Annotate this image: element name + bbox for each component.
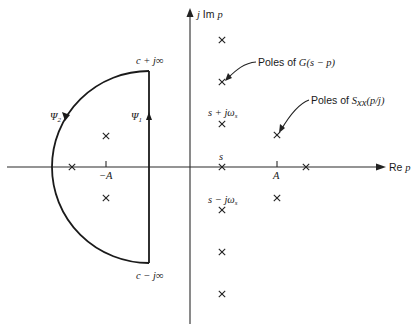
imaginary-axis: j Im p <box>187 8 223 324</box>
pole-marker-icon <box>103 195 109 201</box>
psi1-label: Ψ1 <box>131 111 142 124</box>
s-plus-jomega-label: s + jωs <box>208 107 238 120</box>
svg-text:Poles of G(s − p): Poles of G(s − p) <box>258 56 336 69</box>
annotation-poles-S: Poles of Sxx(p/j) <box>279 94 385 133</box>
real-axis: Re p <box>7 161 411 173</box>
tick-label-neg-A: −A <box>99 170 113 181</box>
tick-label-s: s <box>219 151 223 162</box>
psi2-label: Ψ2 <box>50 111 61 124</box>
tick-label-pos-A: A <box>272 170 280 181</box>
pole-marker-icon <box>274 195 280 201</box>
s-minus-jomega-label: s − jωs <box>208 194 238 207</box>
pole-marker-icon <box>219 37 225 43</box>
complex-plane-contour-diagram: j Im p Re p −A A s c + j∞ c − j∞ Ψ1 Ψ2 s… <box>0 0 415 332</box>
pole-marker-icon <box>219 207 225 213</box>
psi1-direction-arrow-icon <box>146 112 152 120</box>
pole-marker-icon <box>219 79 225 85</box>
pole-marker-icon <box>219 249 225 255</box>
annotation-poles-G: Poles of G(s − p) <box>225 56 336 81</box>
imaginary-axis-label: j Im p <box>195 8 223 20</box>
contour-bottom-label: c − j∞ <box>136 270 163 281</box>
svg-text:Poles of Sxx(p/j): Poles of Sxx(p/j) <box>311 94 385 108</box>
real-axis-label: Re p <box>389 161 411 173</box>
pole-marker-icon <box>219 121 225 127</box>
pole-marker-icon <box>219 291 225 297</box>
annotation-G-arrow-icon <box>225 73 232 81</box>
imaginary-axis-arrow-icon <box>187 8 194 17</box>
pole-marker-icon <box>103 133 109 139</box>
real-axis-arrow-icon <box>376 164 386 171</box>
pole-marker-icon <box>274 132 280 138</box>
contour-top-label: c + j∞ <box>136 55 163 66</box>
